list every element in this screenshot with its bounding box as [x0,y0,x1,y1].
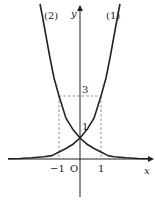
origin-label: O [70,163,78,174]
curve-1-label: (1) [106,10,120,21]
curve-1 [8,4,120,159]
curve-2 [40,4,150,159]
y-axis-label: y [70,8,77,19]
tick-y-3: 3 [82,84,88,95]
tick-x-neg1: −1 [50,163,65,174]
tick-y-1: 1 [82,121,88,132]
tick-x-1: 1 [98,163,104,174]
x-axis-label: x [144,165,150,176]
exponential-graph: (2) (1) y x 3 1 −1 O 1 [0,0,155,201]
curve-2-label: (2) [44,10,58,21]
